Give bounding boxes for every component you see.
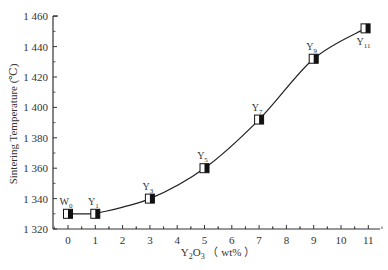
x-tick-label: 11 <box>363 234 374 246</box>
x-tick-label: 7 <box>256 234 262 246</box>
y-tick-label: 1 440 <box>23 41 48 53</box>
x-tick-label: 3 <box>147 234 153 246</box>
temperature-curve <box>68 28 366 213</box>
data-point-label: Y1 <box>88 196 99 210</box>
data-point-marker <box>145 194 154 203</box>
data-point-marker <box>255 115 264 124</box>
data-point-marker <box>91 209 100 218</box>
x-tick-label: 8 <box>284 234 290 246</box>
data-point-marker <box>361 24 370 33</box>
data-point-marker <box>64 209 73 218</box>
x-tick-label: 1 <box>93 234 99 246</box>
y-tick-label: 1 320 <box>23 223 48 235</box>
x-tick-label: 4 <box>174 234 180 246</box>
y-axis-title: Sintering Temperature (℃) <box>7 63 20 184</box>
x-tick-label: 2 <box>120 234 126 246</box>
point-labels: W0Y1Y3Y5Y7Y9Y11 <box>60 36 372 209</box>
data-point-label: Y3 <box>143 181 154 195</box>
y-tick-label: 1 360 <box>23 162 48 174</box>
data-point-marker <box>200 164 209 173</box>
y-tick-label: 1 340 <box>23 193 48 205</box>
x-tick-label: 10 <box>336 234 348 246</box>
data-point-label: W0 <box>60 196 73 210</box>
data-point-label: Y11 <box>357 36 371 50</box>
x-tick-label: 5 <box>202 234 208 246</box>
y-tick-label: 1 460 <box>23 10 48 22</box>
data-point-marker <box>309 54 318 63</box>
sintering-temperature-chart: 1 3201 3401 3601 3801 4001 4201 4401 460… <box>0 0 388 270</box>
y-tick-label: 1 380 <box>23 132 48 144</box>
axis-ticks: 1 3201 3401 3601 3801 4001 4201 4401 460… <box>23 10 382 246</box>
data-point-label: Y5 <box>197 150 208 164</box>
x-tick-label: 0 <box>65 234 71 246</box>
axes <box>53 16 380 229</box>
data-curve <box>68 28 366 213</box>
x-tick-label: 9 <box>311 234 317 246</box>
data-point-label: Y7 <box>252 102 263 116</box>
x-axis-title: Y2O3 （ wt% ） <box>181 246 255 261</box>
y-tick-label: 1 420 <box>23 71 48 83</box>
x-tick-label: 6 <box>229 234 235 246</box>
data-markers <box>64 24 371 218</box>
data-point-label: Y9 <box>306 41 317 55</box>
y-tick-label: 1 400 <box>23 101 48 113</box>
